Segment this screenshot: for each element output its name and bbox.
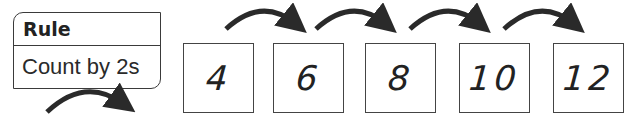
curved-right-arrow-icon <box>504 11 574 29</box>
hop-arrows <box>0 0 638 125</box>
curved-right-arrow-icon <box>316 11 386 29</box>
curved-right-arrow-icon <box>47 92 124 112</box>
curved-right-arrow-icon <box>410 11 480 29</box>
curved-right-arrow-icon <box>226 11 296 29</box>
